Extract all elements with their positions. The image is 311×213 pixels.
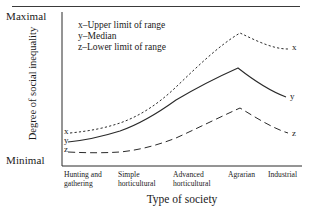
legend-entry-x: x–Upper limit of range: [78, 20, 166, 31]
legend: x–Upper limit of range y–Median z–Lower …: [78, 20, 166, 54]
legend-entry-z: z–Lower limit of range: [78, 42, 166, 53]
x-tick-industrial: Industrial: [268, 170, 297, 179]
curve-tag-right-x: x: [292, 42, 297, 52]
x-axis-title: Type of society: [62, 193, 302, 205]
x-tick-hunting-gathering: Hunting and gathering: [64, 170, 102, 188]
x-tick-agrarian: Agrarian: [228, 170, 255, 179]
curve-tag-left-z: z: [64, 144, 68, 154]
figure-container: Maximal Minimal Degree of social inequal…: [0, 0, 311, 213]
curve-tag-right-y: y: [290, 91, 295, 101]
series-line-z: [68, 108, 288, 153]
legend-entry-y: y–Median: [78, 31, 166, 42]
series-line-y: [68, 68, 286, 142]
curve-tag-right-z: z: [292, 128, 296, 138]
x-tick-simple-horticultural: Simple horticultural: [118, 170, 156, 188]
x-tick-advanced-horticultural: Advanced horticultural: [173, 170, 211, 188]
